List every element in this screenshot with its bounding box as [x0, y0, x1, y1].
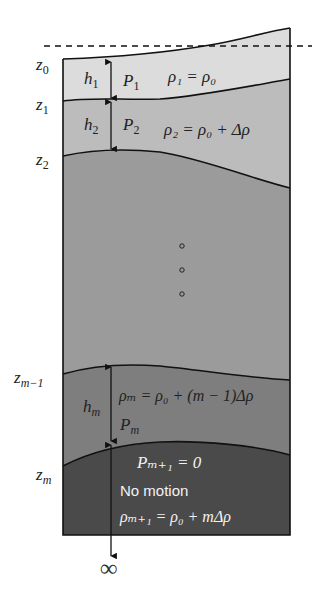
label-z2: z2 [35, 150, 49, 172]
no-motion-label: No motion [120, 482, 188, 499]
pm1-label: Pₘ₊₁ = 0 [136, 453, 202, 472]
label-z1: z1 [35, 95, 49, 117]
infinity-symbol: ∞ [100, 555, 117, 581]
middle-layers-fill [63, 150, 290, 380]
rho1-label: ρ₁ = ρ₀ [167, 67, 216, 86]
rhom-label: ρₘ = ρ₀ + (m − 1)Δρ [118, 387, 254, 405]
layered-model-diagram: z0 z1 z2 zm−1 zm h1 P1 ρ₁ = ρ₀ h2 P2 ρ₂ … [0, 0, 327, 598]
rho2-label: ρ₂ = ρ₀ + Δρ [163, 120, 250, 139]
label-z0: z0 [35, 55, 49, 77]
label-zm: zm [35, 465, 52, 487]
label-zm-1: zm−1 [13, 368, 43, 390]
rhom1-label: ρₘ₊₁ = ρ₀ + mΔρ [119, 508, 231, 526]
